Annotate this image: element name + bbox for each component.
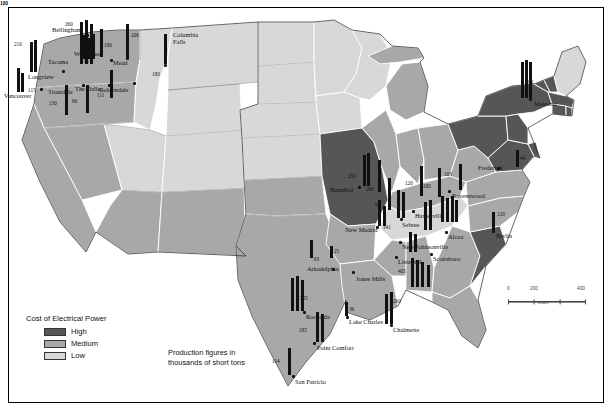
production-bar-value: 280 <box>366 186 374 192</box>
production-bar-value: 25 <box>334 248 339 254</box>
city-label: Alcoa <box>448 233 463 240</box>
legend-swatch <box>44 352 66 360</box>
production-bar <box>367 153 370 186</box>
production-bar <box>416 260 419 287</box>
city-label: Mead <box>113 59 128 66</box>
city-label: New Madrid <box>345 226 377 233</box>
production-bar <box>397 190 400 218</box>
city-label: Lake Charles <box>349 318 383 325</box>
city-label: Berlin <box>496 232 512 239</box>
production-note-line1: Production figures in <box>168 348 235 358</box>
production-bar <box>438 168 441 197</box>
state-arizona <box>96 190 162 254</box>
production-bar-value: 260 <box>393 298 401 304</box>
production-bar-value: 250 <box>348 173 356 179</box>
state-maine <box>554 46 586 96</box>
production-bar <box>390 292 393 324</box>
city-dot <box>448 190 451 193</box>
production-bar-value: 90 <box>72 98 77 104</box>
production-bar <box>321 314 324 342</box>
production-bar <box>110 70 113 98</box>
production-bar <box>451 196 454 222</box>
production-bar-value: 103 <box>444 171 452 177</box>
city-dot <box>133 82 136 85</box>
state-north-dakota <box>258 22 314 66</box>
production-bar <box>30 42 33 72</box>
production-bar <box>87 38 90 59</box>
state-rhode-island <box>566 106 572 116</box>
production-bar <box>378 160 381 192</box>
state-colorado <box>162 130 244 192</box>
production-bar-value: 44 <box>520 155 525 161</box>
production-bar-value: 120 <box>497 211 505 217</box>
city-label: Chalmette <box>393 326 419 333</box>
production-bar <box>529 62 532 98</box>
scale-tick-400: 400 <box>577 286 585 291</box>
production-bar-value: 180 <box>104 42 112 48</box>
production-bar <box>409 232 412 252</box>
production-note-line2: thousands of short tons <box>168 358 245 368</box>
production-bar <box>388 178 391 210</box>
city-label: Columbia Falls <box>173 31 207 45</box>
state-michigan <box>386 62 428 120</box>
scale-tick-200: 200 <box>530 286 538 291</box>
city-dot <box>352 271 355 274</box>
production-bar-value: 206 <box>131 32 139 38</box>
production-bar <box>288 348 291 375</box>
state-nebraska <box>240 102 320 138</box>
legend-item-medium: Medium <box>44 339 98 348</box>
city-label: San Patricio <box>295 378 326 385</box>
city-label: Hannibal <box>330 186 353 193</box>
production-bar <box>330 246 333 258</box>
legend-swatch <box>44 340 66 348</box>
production-bar <box>525 60 528 98</box>
city-dot <box>358 186 361 189</box>
production-bar <box>427 265 430 287</box>
city-label: Tacoma <box>48 58 68 65</box>
production-bar-value: 180 <box>423 183 431 189</box>
production-bar <box>420 166 423 196</box>
legend-label: High <box>71 327 87 336</box>
production-bar <box>301 280 304 311</box>
production-bar <box>345 302 348 316</box>
production-bar <box>363 155 366 186</box>
city-dot <box>313 342 316 345</box>
production-bar <box>100 29 103 57</box>
production-bar <box>385 294 388 324</box>
city-label: Vancouver <box>4 92 31 99</box>
legend-item-low: Low <box>44 351 85 360</box>
production-bar <box>92 34 95 59</box>
city-label: Troutdale <box>48 88 73 95</box>
production-bar <box>414 234 417 252</box>
production-bar <box>17 68 20 92</box>
production-bar-value: 405 <box>398 268 406 274</box>
production-bar <box>459 164 462 190</box>
state-new-jersey <box>506 114 528 144</box>
legend-title: Cost of Electrical Power <box>26 314 107 323</box>
state-florida <box>432 286 486 348</box>
production-bar-value: 185 <box>299 327 307 333</box>
production-bar <box>441 196 444 222</box>
city-dot <box>529 98 532 101</box>
production-bar <box>378 200 381 226</box>
production-bar-value: 120 <box>405 180 413 186</box>
city-dot <box>492 230 495 233</box>
production-bar-value: 130 <box>49 100 57 106</box>
production-bar <box>86 85 89 113</box>
production-bar <box>455 200 458 222</box>
city-label: Scottsboro <box>433 255 460 262</box>
production-bar <box>516 150 519 167</box>
city-dot <box>62 70 65 73</box>
scale-unit-label: miles <box>538 300 548 305</box>
production-bar-value: 63 <box>314 256 319 262</box>
state-south-dakota <box>258 62 316 104</box>
map-page: BellinghamLongviewVancouverTacomaTroutda… <box>0 0 612 411</box>
production-bar <box>82 35 85 59</box>
legend-label: Medium <box>71 339 98 348</box>
production-bar <box>291 278 294 311</box>
scale-bar: 0 200 400 miles <box>508 292 586 308</box>
production-bar-value: 115 <box>28 87 36 93</box>
production-bar-value: 111 <box>97 92 104 98</box>
production-bar-value: 114 <box>272 358 280 364</box>
production-bar <box>402 192 405 218</box>
